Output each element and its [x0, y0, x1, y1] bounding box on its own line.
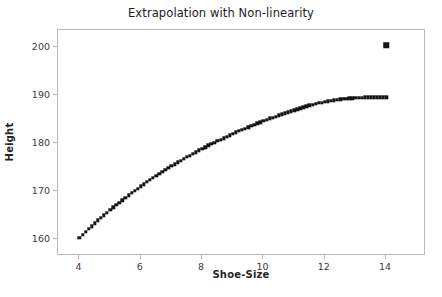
data-point	[84, 230, 87, 233]
x-tick-label: 6	[137, 261, 143, 272]
x-tick-mark	[385, 255, 386, 259]
x-tick-label: 10	[256, 261, 268, 272]
y-tick-label: 180	[24, 137, 50, 148]
x-tick-label: 14	[379, 261, 391, 272]
chart-figure: Extrapolation with Non-linearity Height …	[0, 0, 442, 297]
plot-area	[58, 30, 424, 254]
x-tick-label: 8	[198, 261, 204, 272]
x-tick-mark	[262, 255, 263, 259]
x-tick-label: 12	[318, 261, 330, 272]
x-tick-mark	[140, 255, 141, 259]
x-tick-mark	[78, 255, 79, 259]
y-axis-label: Height	[4, 123, 15, 162]
x-tick-mark	[201, 255, 202, 259]
outlier-marker	[383, 43, 389, 49]
y-tick-label: 170	[24, 185, 50, 196]
x-tick-label: 4	[75, 261, 81, 272]
y-tick-label: 190	[24, 88, 50, 99]
y-tick-label: 200	[24, 40, 50, 51]
data-point	[87, 227, 90, 230]
data-point	[384, 96, 387, 99]
data-point	[93, 222, 96, 225]
plot-frame	[57, 29, 425, 255]
chart-title: Extrapolation with Non-linearity	[0, 6, 442, 20]
x-tick-mark	[324, 255, 325, 259]
y-tick-label: 160	[24, 233, 50, 244]
data-point	[78, 236, 81, 239]
data-point	[105, 211, 108, 214]
